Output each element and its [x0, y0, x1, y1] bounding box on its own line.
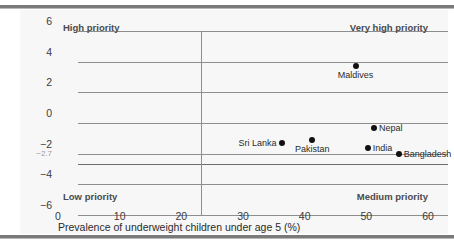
- data-point[interactable]: [396, 151, 402, 157]
- x-axis-tick-label: 60: [408, 211, 448, 222]
- quadrant-label-bottom-right: Medium priority: [357, 192, 428, 202]
- y-axis-tick-label: 0: [18, 108, 52, 119]
- y-axis-tick-label: −6: [18, 200, 52, 211]
- gridline-horizontal: [78, 154, 448, 155]
- data-point[interactable]: [371, 125, 377, 131]
- y-axis-tick-label: 4: [18, 47, 52, 58]
- x-axis-tick-label: 20: [161, 211, 201, 222]
- data-point-label: Bangladesh: [404, 150, 452, 159]
- quadrant-label-top-right: Very high priority: [350, 23, 428, 33]
- y-axis-tick-label: 6: [18, 16, 52, 27]
- gridline-horizontal: [78, 184, 448, 185]
- data-point-label: India: [373, 144, 393, 153]
- y-axis-tick-label: −2: [18, 139, 52, 150]
- plot-area: MaldivesNepalSri LankaPakistanIndiaBangl…: [78, 31, 448, 215]
- data-point-label: Pakistan: [295, 145, 330, 154]
- x-axis-tick-label: 40: [285, 211, 325, 222]
- data-point[interactable]: [309, 137, 315, 143]
- x-axis-tick-label: 30: [223, 211, 263, 222]
- gridline-horizontal: [78, 62, 448, 63]
- reference-line-horizontal: [78, 164, 448, 165]
- reference-line-vertical: [201, 31, 202, 215]
- quadrant-label-bottom-left: Low priority: [63, 192, 117, 202]
- y-axis-tick-label: 2: [18, 77, 52, 88]
- top-rule-inner: [0, 8, 454, 9]
- y-axis-tick-label: −4: [18, 169, 52, 180]
- bottom-rule-inner: [0, 238, 454, 239]
- x-axis-tick-label: 10: [100, 211, 140, 222]
- data-point[interactable]: [365, 145, 371, 151]
- data-point[interactable]: [279, 140, 285, 146]
- data-point-label: Nepal: [379, 124, 403, 133]
- x-axis-tick-label: 0: [38, 211, 78, 222]
- chart-page: MaldivesNepalSri LankaPakistanIndiaBangl…: [0, 0, 454, 249]
- quadrant-label-top-left: High priority: [63, 23, 119, 33]
- data-point-label: Sri Lanka: [238, 139, 276, 148]
- gridline-horizontal: [78, 92, 448, 93]
- x-axis-title: Prevalence of underweight children under…: [58, 222, 300, 233]
- y-axis-reference-label: −2.7: [18, 150, 52, 158]
- data-point[interactable]: [353, 63, 359, 69]
- data-point-label: Maldives: [338, 71, 374, 80]
- x-axis-tick-label: 50: [346, 211, 386, 222]
